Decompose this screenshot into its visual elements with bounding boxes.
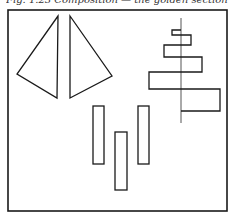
- left-triangle: [17, 16, 58, 98]
- middle-bar: [115, 132, 127, 190]
- composition-figure: [0, 0, 231, 214]
- right-triangle: [70, 16, 112, 98]
- stepped-spiral: [149, 18, 220, 123]
- right-bar: [138, 106, 149, 164]
- left-bar: [93, 106, 104, 164]
- spiral-step-1: [149, 30, 220, 111]
